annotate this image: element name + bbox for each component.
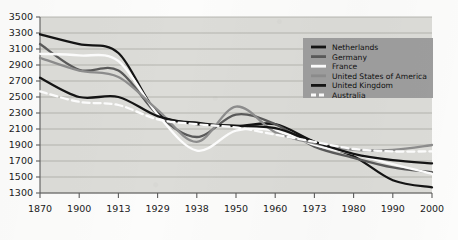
legend-label: Australia <box>332 91 366 100</box>
x-axis <box>40 193 432 198</box>
y-axis-tick-labels: 1300150017001900210023002500270029003100… <box>9 11 33 198</box>
x-tick-label: 1990 <box>381 203 405 214</box>
x-tick-label: 1950 <box>224 203 248 214</box>
y-tick-label: 1500 <box>9 171 33 182</box>
x-tick-label: 1900 <box>67 203 91 214</box>
line-chart: 1300150017001900210023002500270029003100… <box>0 0 458 240</box>
y-tick-label: 2900 <box>9 59 33 70</box>
legend-label: United Kingdom <box>332 81 393 90</box>
legend-label: Germany <box>332 53 367 62</box>
y-tick-label: 1300 <box>9 187 33 198</box>
x-tick-label: 1938 <box>185 203 209 214</box>
x-tick-label: 1980 <box>342 203 366 214</box>
y-tick-label: 2100 <box>9 123 33 134</box>
chart-legend: NetherlandsGermanyFranceUnited States of… <box>303 38 433 100</box>
chart-figure: 1300150017001900210023002500270029003100… <box>0 0 458 240</box>
x-tick-label: 1913 <box>106 203 130 214</box>
x-tick-label: 1929 <box>146 203 170 214</box>
y-tick-label: 3100 <box>9 43 33 54</box>
x-tick-label: 1870 <box>28 203 52 214</box>
y-tick-label: 2500 <box>9 91 33 102</box>
legend-label: United States of America <box>332 72 427 81</box>
legend-label: France <box>332 62 358 71</box>
y-tick-label: 3300 <box>9 27 33 38</box>
x-tick-label: 2000 <box>420 203 444 214</box>
x-tick-label: 1960 <box>263 203 287 214</box>
y-tick-label: 2700 <box>9 75 33 86</box>
y-tick-label: 1700 <box>9 155 33 166</box>
y-tick-label: 1900 <box>9 139 33 150</box>
x-axis-tick-labels: 1870190019131929193819501960197319801990… <box>28 203 444 214</box>
y-tick-label: 3500 <box>9 11 33 22</box>
y-tick-label: 2300 <box>9 107 33 118</box>
x-tick-label: 1973 <box>302 203 326 214</box>
legend-label: Netherlands <box>332 43 378 52</box>
